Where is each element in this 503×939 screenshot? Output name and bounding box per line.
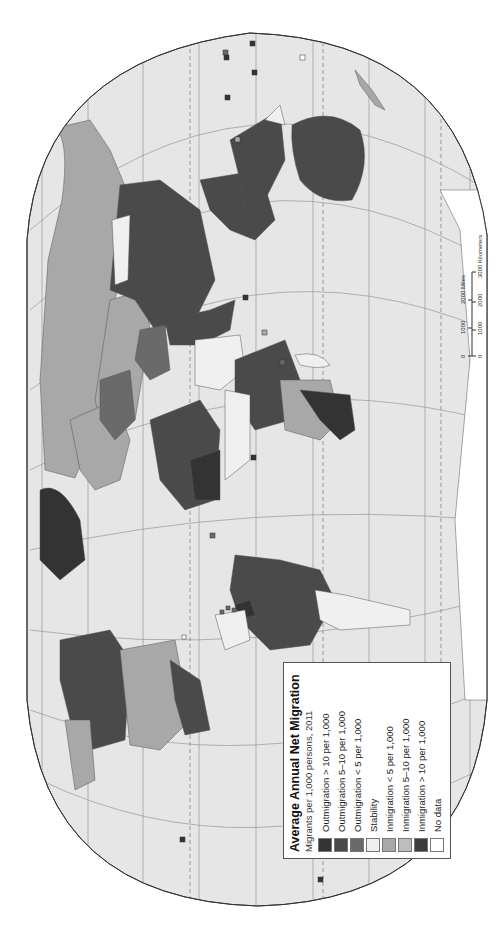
legend-subtitle: Migrants per 1,000 persons, 2011 xyxy=(302,669,315,852)
legend-label: Outmigration > 10 per 1,000 xyxy=(320,713,331,832)
map-legend: Average Annual Net Migration Migrants pe… xyxy=(283,662,451,859)
scale-km-1000: 1000 xyxy=(477,322,483,335)
legend-swatch xyxy=(382,838,396,852)
legend-item: Outmigration > 10 per 1,000 xyxy=(317,669,333,852)
legend-item: Inmigration 5–10 per 1,000 xyxy=(397,669,413,852)
region-mongolia xyxy=(112,215,130,285)
legend-item: Inmigration < 5 per 1,000 xyxy=(381,669,397,852)
legend-label: Outmigration 5–10 per 1,000 xyxy=(336,711,347,832)
legend-swatch xyxy=(430,838,444,852)
scale-miles-0: 0 xyxy=(460,355,466,358)
legend-swatch xyxy=(366,838,380,852)
scale-km-2000: 2000 xyxy=(477,294,483,307)
legend-item: Stability xyxy=(365,669,381,852)
legend-swatch xyxy=(398,838,412,852)
legend-item: No data xyxy=(429,669,445,852)
legend-swatch xyxy=(414,838,428,852)
legend-label: Inmigration 5–10 per 1,000 xyxy=(400,718,411,832)
legend-label: Outmigration < 5 per 1,000 xyxy=(352,719,363,832)
legend-label: No data xyxy=(432,799,443,832)
legend-item: Inmigration > 10 per 1,000 xyxy=(413,669,429,852)
legend-item: Outmigration 5–10 per 1,000 xyxy=(333,669,349,852)
scale-bar: 0 1000 2000 Miles 0 1000 2000 3000 Kilom… xyxy=(452,252,492,362)
legend-swatch xyxy=(334,838,348,852)
legend-item: Outmigration < 5 per 1,000 xyxy=(349,669,365,852)
scale-miles-2000: 2000 Miles xyxy=(460,275,466,304)
scale-km-3000: 3000 Kilometers xyxy=(477,235,483,278)
legend-title: Average Annual Net Migration xyxy=(288,669,302,852)
legend-label: Inmigration > 10 per 1,000 xyxy=(416,721,427,832)
scale-miles-1000: 1000 xyxy=(460,321,466,334)
legend-swatch xyxy=(318,838,332,852)
legend-label: Inmigration < 5 per 1,000 xyxy=(384,726,395,832)
scale-km-0: 0 xyxy=(477,355,483,358)
legend-swatch xyxy=(350,838,364,852)
legend-label: Stability xyxy=(368,799,379,832)
